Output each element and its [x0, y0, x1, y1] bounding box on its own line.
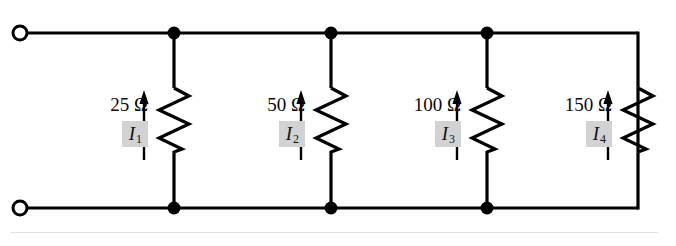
circuit-diagram-figure: 25 Ω I1 50 Ω I2 100 Ω I3 150 Ω I4	[0, 0, 676, 246]
branch-3-resistor-zigzag	[472, 88, 502, 208]
branch-4-arrow-head	[603, 90, 612, 104]
bottom-left-terminal	[13, 201, 27, 215]
junction-dot	[168, 202, 181, 215]
branch-2-arrow-head	[296, 90, 305, 104]
branch-1-arrow-head	[139, 90, 148, 104]
branch-3-current-arrow	[452, 90, 461, 160]
junction-dot	[481, 202, 494, 215]
junction-dot	[325, 202, 338, 215]
circuit-schematic	[0, 0, 676, 246]
branch-2-resistor-group	[316, 33, 346, 208]
branch-1-current-arrow	[139, 90, 148, 160]
branch-2-resistor-zigzag	[316, 88, 346, 208]
junction-dot	[168, 27, 181, 40]
branch-3-arrow-head	[452, 90, 461, 104]
caption-divider-rule	[10, 232, 658, 233]
branch-4-current-arrow	[603, 90, 612, 160]
branch-3-resistor-group	[472, 33, 502, 208]
junction-dot	[325, 27, 338, 40]
branch-1-resistor-zigzag	[159, 88, 189, 208]
top-left-terminal	[13, 26, 27, 40]
branch-2-current-arrow	[296, 90, 305, 160]
branch-1-resistor-group	[159, 33, 189, 208]
junction-dot	[481, 27, 494, 40]
